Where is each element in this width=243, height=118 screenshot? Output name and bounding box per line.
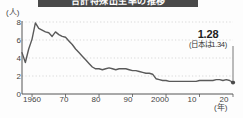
fertility-rate-line (22, 23, 233, 83)
endpoint-marker (231, 80, 235, 84)
gridlines (22, 22, 233, 76)
chart-container: 合計特殊出生率の推移 (人) (年) 8 6 4 2 0 1960 70 80 … (0, 0, 243, 118)
chart-plot-svg (0, 0, 243, 118)
